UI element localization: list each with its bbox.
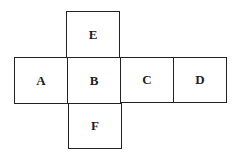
- face-f: F: [68, 103, 122, 149]
- face-d: D: [173, 57, 227, 103]
- face-e: E: [66, 11, 120, 58]
- face-b: B: [67, 57, 121, 104]
- face-a: A: [14, 57, 68, 104]
- face-c: C: [120, 57, 174, 103]
